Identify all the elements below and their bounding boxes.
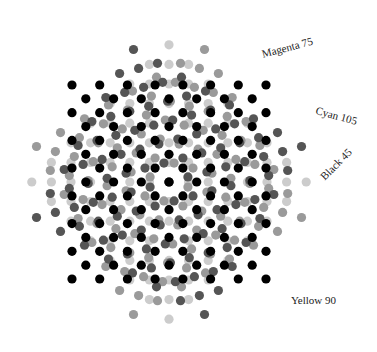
cyan-dot bbox=[176, 59, 185, 68]
black-dot bbox=[206, 191, 215, 200]
cyan-dot bbox=[79, 195, 88, 204]
black-dot bbox=[81, 233, 90, 242]
cyan-dot bbox=[188, 164, 197, 173]
yellow-dot bbox=[282, 177, 291, 186]
black-dot bbox=[206, 136, 215, 145]
cyan-dot bbox=[278, 208, 287, 217]
magenta-dot bbox=[140, 164, 149, 173]
yellow-dot bbox=[27, 177, 36, 186]
black-dot bbox=[206, 219, 215, 228]
black-dot bbox=[137, 261, 146, 270]
cyan-dot bbox=[140, 191, 149, 200]
black-dot bbox=[178, 191, 187, 200]
black-dot bbox=[109, 177, 118, 186]
black-dot bbox=[234, 191, 243, 200]
magenta-dot bbox=[79, 160, 88, 169]
magenta-dot bbox=[99, 236, 108, 245]
magenta-dot bbox=[134, 64, 143, 73]
magenta-dot bbox=[218, 224, 227, 233]
black-dot bbox=[178, 164, 187, 173]
cyan-dot bbox=[223, 112, 232, 121]
yellow-dot bbox=[164, 138, 173, 147]
black-dot bbox=[220, 261, 229, 270]
black-dot bbox=[164, 177, 173, 186]
black-dot bbox=[95, 274, 104, 283]
magenta-dot bbox=[152, 282, 161, 291]
cyan-dot bbox=[221, 193, 230, 202]
black-dot bbox=[261, 191, 270, 200]
cyan-dot bbox=[153, 296, 162, 305]
black-dot bbox=[137, 177, 146, 186]
black-dot bbox=[137, 233, 146, 242]
black-dot bbox=[67, 108, 76, 117]
black-dot bbox=[151, 274, 160, 283]
black-dot bbox=[67, 80, 76, 89]
cyan-dot bbox=[106, 243, 115, 252]
black-dot bbox=[123, 191, 132, 200]
black-dot bbox=[123, 80, 132, 89]
magenta-dot bbox=[180, 234, 189, 243]
magenta-dot bbox=[176, 296, 185, 305]
magenta-dot bbox=[142, 244, 151, 253]
cyan-dot bbox=[259, 203, 268, 212]
black-dot bbox=[261, 108, 270, 117]
black-dot bbox=[164, 261, 173, 270]
magenta-dot bbox=[32, 213, 41, 222]
yellow-dot bbox=[184, 295, 193, 304]
black-dot bbox=[248, 94, 257, 103]
black-dot bbox=[81, 261, 90, 270]
black-dot bbox=[178, 219, 187, 228]
magenta-dot bbox=[223, 243, 232, 252]
magenta-dot bbox=[146, 183, 155, 192]
black-dot bbox=[95, 191, 104, 200]
cyan-dot bbox=[214, 69, 223, 78]
cyan-dot bbox=[146, 172, 155, 181]
black-dot bbox=[67, 136, 76, 145]
magenta-dot bbox=[51, 208, 60, 217]
black-dot bbox=[261, 219, 270, 228]
yellow-dot bbox=[164, 295, 173, 304]
magenta-dot bbox=[249, 114, 258, 123]
magenta-dot bbox=[188, 191, 197, 200]
cyan-dot bbox=[200, 45, 209, 54]
magenta-dot bbox=[230, 119, 239, 128]
black-dot bbox=[192, 233, 201, 242]
yellow-dot bbox=[164, 40, 173, 49]
black-dot bbox=[206, 274, 215, 283]
magenta-dot bbox=[80, 241, 89, 250]
black-dot bbox=[151, 191, 160, 200]
black-dot bbox=[220, 205, 229, 214]
black-dot bbox=[192, 94, 201, 103]
magenta-dot bbox=[190, 272, 199, 281]
yellow-dot bbox=[282, 197, 291, 206]
cyan-dot bbox=[142, 111, 151, 120]
yellow-dot bbox=[302, 177, 311, 186]
cyan-dot bbox=[149, 234, 158, 243]
magenta-dot bbox=[147, 263, 156, 272]
cyan-dot bbox=[51, 147, 60, 156]
cyan-dot bbox=[250, 160, 259, 169]
black-dot bbox=[123, 108, 132, 117]
black-dot bbox=[81, 150, 90, 159]
magenta-dot bbox=[149, 121, 158, 130]
cyan-dot bbox=[32, 142, 41, 151]
black-dot bbox=[137, 122, 146, 131]
magenta-dot bbox=[183, 172, 192, 181]
black-dot bbox=[261, 80, 270, 89]
black-dot bbox=[261, 274, 270, 283]
yellow-dot bbox=[47, 197, 56, 206]
black-dot bbox=[178, 80, 187, 89]
black-dot bbox=[95, 164, 104, 173]
yellow-dot bbox=[282, 158, 291, 167]
cyan-dot bbox=[46, 166, 55, 175]
magenta-dot bbox=[106, 112, 115, 121]
magenta-dot bbox=[60, 165, 69, 174]
cyan-dot bbox=[151, 153, 160, 162]
yellow-dot bbox=[145, 295, 154, 304]
black-dot bbox=[234, 80, 243, 89]
black-dot bbox=[248, 150, 257, 159]
black-dot bbox=[248, 233, 257, 242]
black-dot bbox=[248, 261, 257, 270]
black-dot bbox=[123, 219, 132, 228]
magenta-dot bbox=[250, 195, 259, 204]
